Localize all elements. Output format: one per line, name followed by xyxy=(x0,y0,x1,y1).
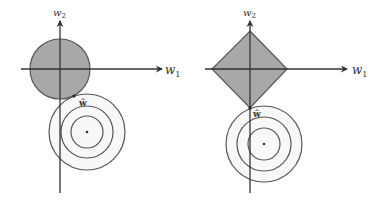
optimum-point xyxy=(248,106,251,109)
optimum-point xyxy=(72,94,75,97)
w1-label: w1 xyxy=(352,63,367,79)
optimum-label: ŵ xyxy=(252,109,261,119)
loss-minimum-point xyxy=(263,143,266,146)
w1-label: w1 xyxy=(165,63,180,79)
loss-minimum-point xyxy=(86,131,89,134)
optimum-label: ŵ xyxy=(78,98,87,108)
loss-contours xyxy=(226,106,302,182)
panel-l1-lasso: ŵ w1 w2 xyxy=(205,7,367,193)
w2-label: w2 xyxy=(53,7,66,20)
w2-label: w2 xyxy=(243,7,256,20)
regularization-diagram: ŵ w1 w2 ŵ w1 w2 xyxy=(0,0,383,201)
panel-l2-ridge: ŵ w1 w2 xyxy=(21,7,180,193)
